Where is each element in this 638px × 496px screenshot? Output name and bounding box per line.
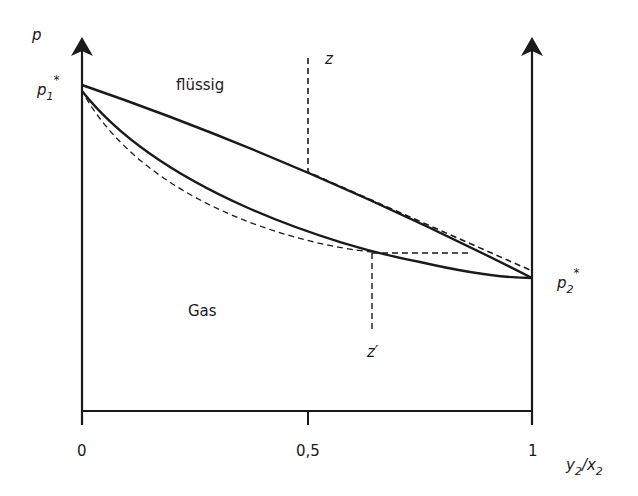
region-liquid-label: flüssig [176, 76, 224, 94]
dashed-line-z [308, 58, 530, 270]
x-tick-1: 1 [528, 442, 538, 460]
region-gas-label: Gas [188, 302, 217, 320]
x-tick-05: 0,5 [296, 442, 320, 460]
dashed-curve [86, 98, 372, 252]
vapor-line [82, 91, 532, 278]
feed-z-prime-label: z′ [366, 343, 379, 361]
feed-z-label: z [324, 50, 334, 68]
liquid-line [82, 85, 532, 278]
x-axis-label: y2/x2 [565, 456, 603, 478]
y-axis-label: p [31, 26, 42, 44]
p2-star-label: p2* [556, 266, 580, 296]
x-tick-0: 0 [77, 442, 87, 460]
p1-star-label: p1* [36, 73, 60, 103]
phase-diagram: p p1* p2* flüssig Gas z z′ 0 0,5 1 y2/x2 [0, 0, 638, 496]
